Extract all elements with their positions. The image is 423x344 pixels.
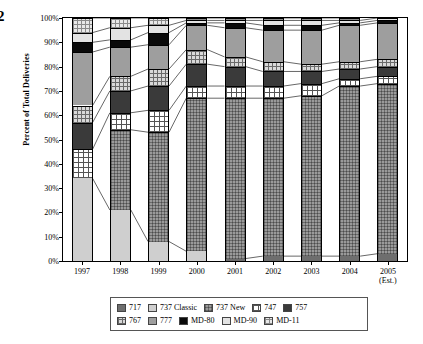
x-tick-year: 2005: [379, 267, 397, 276]
legend-label: 747: [264, 303, 276, 312]
segment-777: [73, 52, 92, 105]
x-tick-year: 2003: [303, 267, 319, 276]
segment-757: [302, 71, 321, 83]
connector-line: [169, 98, 186, 132]
y-tick-mark: [59, 140, 63, 141]
segment-md-90: [264, 20, 283, 25]
connector-line: [93, 40, 110, 42]
legend-label: 737 New: [216, 303, 245, 312]
segment-737-classic: [187, 251, 206, 261]
connector-line: [246, 23, 263, 25]
connector-line: [246, 57, 263, 62]
segment-md-80: [187, 23, 206, 25]
y-tick-mark: [59, 164, 63, 165]
x-tick-year: 1998: [112, 267, 128, 276]
segment-747: [149, 110, 168, 132]
legend-item-737-classic: 737 Classic: [148, 303, 197, 312]
bar-2003: [301, 18, 322, 261]
segment-md-80: [73, 42, 92, 52]
x-tick-year: 1997: [74, 267, 90, 276]
bar-2005: [377, 18, 398, 261]
connector-line: [131, 130, 148, 132]
segment-md-80: [149, 33, 168, 45]
segment-md-80: [378, 20, 397, 22]
x-tick-year: 2001: [227, 267, 243, 276]
y-tick-label: 60%: [44, 111, 59, 120]
segment-777: [302, 30, 321, 64]
connector-line: [360, 84, 377, 86]
segment-md-80: [111, 40, 130, 47]
x-tick-mark: [120, 261, 121, 265]
connector-line: [169, 23, 186, 33]
segment-757: [73, 123, 92, 150]
segment-md-90: [226, 20, 245, 22]
segment-737-new: [340, 86, 359, 256]
segment-md-80: [226, 23, 245, 28]
segment-777: [149, 45, 168, 69]
x-tick-label: 2005(Est.): [379, 267, 397, 285]
x-tick-year: 2002: [265, 267, 281, 276]
bar-1999: [148, 18, 169, 261]
connector-line: [322, 86, 339, 96]
connector-line: [169, 50, 186, 69]
segment-747: [302, 84, 321, 96]
connector-line: [93, 91, 110, 123]
segment-737-new: [187, 98, 206, 251]
segment-md-11: [111, 18, 130, 28]
segment-747: [111, 113, 130, 130]
bar-2002: [263, 18, 284, 261]
segment-md-90: [340, 20, 359, 22]
y-tick-label: 90%: [44, 38, 59, 47]
y-axis-label: Percent of Total Deliveries: [22, 30, 31, 170]
y-tick-label: 70%: [44, 86, 59, 95]
segment-md-11: [187, 18, 206, 20]
segment-md-90: [302, 20, 321, 25]
segment-767: [73, 106, 92, 123]
segment-md-11: [73, 18, 92, 33]
connector-line: [93, 113, 110, 149]
legend-item-737-new: 737 New: [204, 303, 245, 312]
x-tick-mark: [197, 261, 198, 265]
legend-swatch-icon: [252, 304, 261, 312]
segment-md-90: [111, 28, 130, 40]
legend-label: 717: [129, 303, 141, 312]
segment-md-80: [302, 25, 321, 30]
connector-line: [93, 47, 110, 52]
bar-2004: [339, 18, 360, 261]
legend-item-777: 777: [148, 316, 172, 325]
y-tick-mark: [59, 18, 63, 19]
segment-767: [226, 57, 245, 67]
connector-line: [246, 28, 263, 30]
legend-swatch-icon: [283, 304, 292, 312]
connector-line: [131, 25, 148, 27]
segment-747: [73, 149, 92, 178]
connector-line: [360, 20, 377, 22]
segment-md-90: [149, 25, 168, 32]
legend-item-717: 717: [117, 303, 141, 312]
connector-line: [360, 59, 377, 61]
segment-747: [226, 86, 245, 98]
x-tick-label: 2003: [303, 267, 319, 276]
legend-swatch-icon: [264, 317, 273, 325]
segment-md-90: [73, 33, 92, 43]
segment-757: [226, 67, 245, 86]
x-tick-year: 2000: [189, 267, 205, 276]
legend-row-1: 717737 Classic737 New747757: [117, 301, 361, 314]
segment-737-classic: [73, 178, 92, 261]
x-tick-sublabel: (Est.): [379, 276, 397, 285]
connector-line: [169, 242, 186, 252]
segment-md-11: [149, 18, 168, 25]
legend-swatch-icon: [179, 317, 188, 325]
connector-line: [207, 25, 224, 27]
legend-label: MD-80: [191, 316, 215, 325]
legend-item-767: 767: [117, 316, 141, 325]
x-tick-label: 2004: [342, 267, 358, 276]
segment-737-classic: [111, 210, 130, 261]
segment-767: [187, 50, 206, 65]
segment-767: [378, 59, 397, 66]
connector-line: [207, 50, 224, 57]
connector-line: [322, 79, 339, 84]
segment-767: [111, 76, 130, 91]
connector-line: [93, 28, 110, 33]
connector-line: [246, 67, 263, 72]
